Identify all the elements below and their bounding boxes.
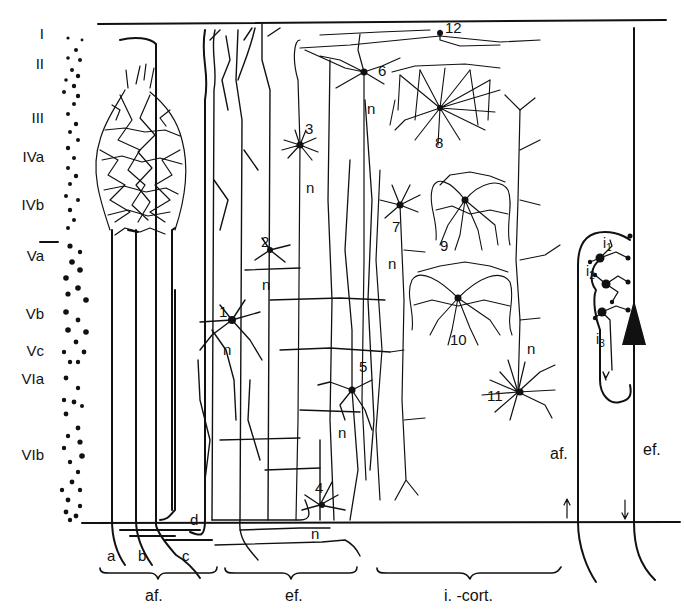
white-matter-line (82, 522, 680, 523)
neuron-5-soma (349, 387, 356, 394)
cortex-diagram: I II III IVa IVb Va Vb Vc VIa VIb 1 2 3 … (0, 0, 684, 614)
neuron-label-5: 5 (359, 359, 367, 374)
interneuron-label-i1: i1 (603, 236, 612, 253)
neuron-label-12: 12 (445, 20, 462, 35)
group-label-efferent: ef. (285, 588, 303, 604)
fiber-label-a: a (107, 548, 115, 563)
neuron-3-soma (297, 142, 304, 149)
fiber-a (112, 230, 125, 565)
axon-label-n7: n (388, 256, 396, 271)
fiber-label-c: c (182, 548, 190, 563)
neuron-3 (282, 40, 318, 520)
layer-label-vb: Vb (0, 306, 44, 321)
interneuron-label-i2: i2 (586, 264, 595, 281)
neuron-label-1: 1 (219, 304, 227, 319)
cell-body-column (60, 36, 89, 522)
neuron-6 (300, 30, 540, 480)
arrow-up (564, 499, 570, 518)
pial-surface-line (98, 20, 666, 24)
neuron-6-soma (361, 69, 368, 76)
circuit-schema (578, 28, 655, 582)
circuit-label-efferent: ef. (643, 442, 661, 458)
layer-label-ii: II (0, 56, 44, 71)
fiber-d-stem (120, 38, 156, 510)
neuron-8 (390, 64, 500, 145)
axon-label-n5: n (338, 425, 346, 440)
neuron-label-8: 8 (435, 135, 443, 150)
afferent-fibers (112, 30, 212, 578)
axon-label-n6: n (367, 101, 375, 116)
axon-label-n2: n (262, 277, 270, 292)
diagram-drawing (0, 0, 684, 614)
neuron-4-soma (319, 502, 325, 508)
neuron-7 (376, 170, 425, 500)
neuron-label-2: 2 (261, 234, 269, 249)
neuron-label-4: 4 (315, 480, 323, 495)
neuron-label-3: 3 (305, 121, 313, 136)
axon-label-n11: n (527, 341, 535, 356)
direction-arrows (564, 499, 628, 519)
neuron-label-10: 10 (450, 332, 467, 347)
neuron-8-soma (437, 105, 443, 111)
afferent-arborization (96, 64, 186, 235)
brace-ef (225, 567, 357, 579)
fiber-label-d: d (190, 512, 198, 527)
group-label-afferent: af. (145, 588, 163, 604)
efferent-neurons (198, 24, 360, 560)
layer-label-iva: IVa (0, 149, 44, 164)
axon-label-n4: n (311, 526, 319, 541)
neuron-label-7: 7 (392, 219, 400, 234)
layer-label-via: VIa (0, 371, 44, 386)
layer-label-ivb: IVb (0, 197, 44, 212)
neuron-1-soma (228, 316, 236, 324)
layer-label-va: Va (0, 248, 44, 263)
layer-label-iii: III (0, 110, 44, 125)
neuron-label-9: 9 (440, 238, 448, 253)
layer-label-i: I (0, 26, 44, 41)
group-label-intracortical: i. -cort. (444, 588, 493, 604)
arrow-down (622, 500, 628, 519)
neuron-label-11: 11 (487, 388, 503, 403)
neuron-11-soma (517, 389, 524, 396)
efferent-axon (634, 28, 655, 580)
layer-label-vc: Vc (0, 343, 44, 358)
neuron-7-soma (397, 202, 404, 209)
neuron-10-soma (455, 295, 462, 302)
neuron-12-soma (437, 30, 443, 36)
neuron-label-6: 6 (378, 63, 386, 78)
fiber-label-b: b (138, 548, 146, 563)
brace-icort (377, 567, 561, 579)
interneuron-label-i3: i3 (596, 332, 605, 349)
efferent-pyramid-soma (622, 300, 646, 345)
layer-label-vib: VIb (0, 447, 44, 462)
axon-label-n1: n (223, 342, 231, 357)
fiber-d (190, 30, 206, 535)
circuit-label-afferent: af. (550, 446, 568, 462)
neuron-9-soma (462, 197, 469, 204)
axon-label-n3: n (306, 180, 314, 195)
fiber-b (136, 230, 152, 565)
group-braces (100, 567, 561, 579)
neuron-11 (482, 95, 560, 420)
